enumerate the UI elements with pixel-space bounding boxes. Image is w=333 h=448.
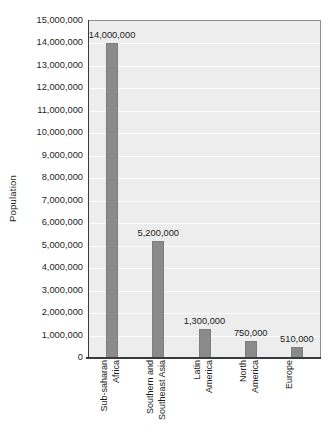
y-axis-tick-label: 7,000,000 (0, 195, 86, 205)
x-axis-category-label: North America (238, 360, 264, 448)
bar[interactable] (199, 329, 211, 358)
y-axis-tick-label: 10,000,000 (0, 127, 86, 137)
y-axis-tick-label: 0 (0, 352, 86, 362)
x-axis-category-label: Sub-saharan Africa (99, 360, 125, 448)
y-axis-tick-label: 9,000,000 (0, 150, 86, 160)
bars-layer (89, 21, 320, 358)
y-axis-tick-label: 6,000,000 (0, 217, 86, 227)
x-axis-line (86, 357, 321, 359)
y-axis-tick-label: 15,000,000 (0, 15, 86, 25)
x-axis-category-labels: Sub-saharan AfricaSouthern and Southeast… (89, 360, 320, 448)
bar[interactable] (106, 43, 118, 358)
y-axis-tick-labels: 15,000,00014,000,00013,000,00012,000,000… (0, 0, 86, 448)
y-axis-tick-label: 13,000,000 (0, 60, 86, 70)
y-axis-tick-label: 1,000,000 (0, 330, 86, 340)
x-axis-category-label: Southern and Southeast Asia (145, 360, 171, 448)
bar[interactable] (152, 241, 164, 358)
y-axis-tick-label: 2,000,000 (0, 307, 86, 317)
y-axis-tick-label: 12,000,000 (0, 82, 86, 92)
y-axis-tick-label: 11,000,000 (0, 105, 86, 115)
y-axis-tick-label: 8,000,000 (0, 172, 86, 182)
y-axis-line (88, 20, 90, 359)
bar[interactable] (245, 341, 257, 358)
y-axis-tick-label: 14,000,000 (0, 37, 86, 47)
x-axis-category-label: Latin America (192, 360, 218, 448)
plot-area (89, 20, 321, 358)
y-axis-tick-label: 3,000,000 (0, 285, 86, 295)
x-axis-category-label: Europe (284, 360, 310, 448)
y-axis-tick-label: 4,000,000 (0, 262, 86, 272)
population-bar-chart: Population 15,000,00014,000,00013,000,00… (0, 0, 333, 448)
y-axis-tick-label: 5,000,000 (0, 240, 86, 250)
